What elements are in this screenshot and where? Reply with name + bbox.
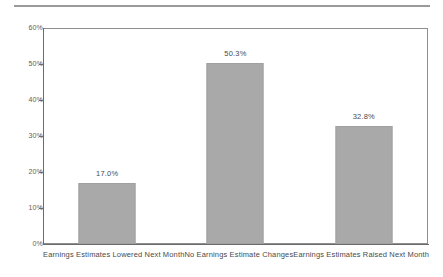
y-axis-tick-label: 10%	[5, 204, 43, 212]
y-axis-tick-label: 0%	[5, 240, 43, 248]
bar-value-label: 32.8%	[353, 112, 375, 121]
x-axis-category-label: No Earnings Estimate Changes	[184, 248, 293, 268]
bars-layer: 17.0%50.3%32.8%	[43, 28, 428, 244]
bar-value-label: 17.0%	[96, 169, 118, 178]
y-axis-tick-label: 40%	[5, 96, 43, 104]
bar-chart-figure: 0%10%20%30%40%50%60% 17.0%50.3%32.8% Ear…	[0, 0, 443, 277]
bar[interactable]	[207, 63, 264, 244]
bar-value-label: 50.3%	[224, 49, 246, 58]
y-axis-tick-label: 60%	[5, 24, 43, 32]
y-axis-tick-labels: 0%10%20%30%40%50%60%	[0, 0, 43, 277]
x-axis-line	[43, 244, 429, 245]
x-axis-category-labels: Earnings Estimates Lowered Next MonthNo …	[43, 248, 428, 268]
bar-group: 50.3%	[171, 28, 299, 244]
bar[interactable]	[79, 183, 136, 244]
y-axis-tick-label: 20%	[5, 168, 43, 176]
y-axis-tick-label: 50%	[5, 60, 43, 68]
bar-group: 17.0%	[43, 28, 171, 244]
y-axis-tick-label: 30%	[5, 132, 43, 140]
top-divider-rule	[14, 5, 430, 7]
x-axis-category-label: Earnings Estimates Lowered Next Month	[43, 248, 184, 268]
bar-group: 32.8%	[300, 28, 428, 244]
x-axis-category-label: Earnings Estimates Raised Next Month	[293, 248, 429, 268]
bar[interactable]	[335, 126, 392, 244]
